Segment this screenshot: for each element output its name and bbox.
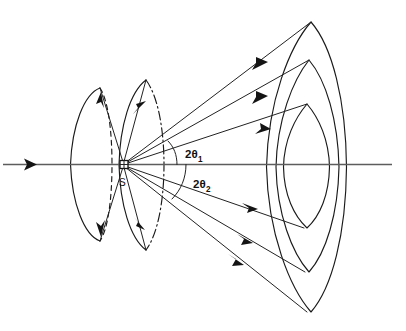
forward-ray-up-2-arrow-icon xyxy=(252,91,268,104)
forward-ray-up-2 xyxy=(125,60,309,164)
forward-ray-down-3 xyxy=(125,167,307,312)
forward-rays-down xyxy=(125,166,307,312)
angle-2theta1-label: 2θ1 xyxy=(185,148,203,164)
detector-rings xyxy=(267,22,347,312)
forward-rays-up xyxy=(125,22,311,164)
forward-ray-down-2-arrow-icon xyxy=(237,234,253,245)
back-ray-up-outer-arrow-icon xyxy=(96,92,104,108)
angle-2theta2-arc xyxy=(172,165,186,200)
diffraction-figure: S 2θ1 2θ2 xyxy=(0,0,406,331)
forward-ray-up-1-arrow-icon xyxy=(252,57,268,70)
forward-ray-up-1 xyxy=(125,22,311,163)
detector-ring-inner xyxy=(284,104,330,228)
diffraction-cone-diagram: S 2θ1 2θ2 xyxy=(0,0,406,331)
angle-2theta2-label: 2θ2 xyxy=(193,178,211,194)
sample-label: S xyxy=(119,177,126,188)
back-ray-down-inner-arrow-icon xyxy=(133,216,145,230)
angle-2theta1-arc xyxy=(168,141,177,165)
